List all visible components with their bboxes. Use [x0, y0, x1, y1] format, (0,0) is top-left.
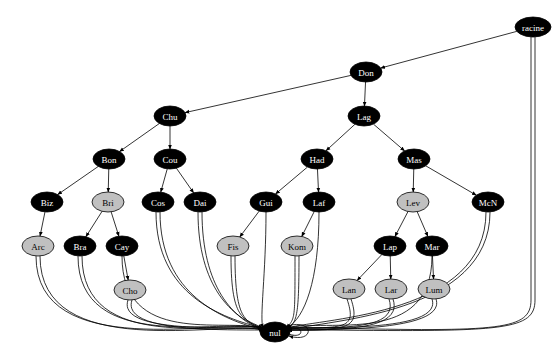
node-Lum[interactable]: Lum [418, 279, 450, 299]
node-label: Dai [194, 198, 207, 208]
node-label: Arc [31, 242, 45, 252]
edge-Bon-Biz [58, 166, 99, 194]
edge-Bon-Bri [108, 169, 109, 192]
node-label: Lev [406, 198, 420, 208]
edge-Lan-nul [286, 299, 350, 328]
node-label: Bon [101, 155, 117, 165]
node-label: nul [269, 328, 281, 338]
node-label: Cou [162, 155, 178, 165]
edge-Mas-Lev [413, 169, 414, 192]
node-Lap[interactable]: Lap [374, 236, 406, 256]
edge-Cos-nul [156, 212, 262, 328]
edge-Bri-Cay [111, 212, 119, 236]
node-Dai[interactable]: Dai [184, 192, 216, 212]
node-label: Don [358, 68, 374, 78]
node-label: Lum [426, 285, 443, 295]
node-label: Cho [122, 286, 138, 296]
graph-diagram: racineDonChuLagBonCouHadMasBizBriCosDaiG… [0, 0, 560, 364]
node-Laf[interactable]: Laf [303, 192, 335, 212]
node-label: Mar [425, 242, 440, 252]
edge-Had-Laf [317, 169, 318, 192]
edge-Fis-nul [235, 256, 264, 330]
node-Lag[interactable]: Lag [348, 106, 380, 126]
edge-Lag-Mas [373, 124, 404, 151]
node-label: Laf [313, 198, 326, 208]
node-Biz[interactable]: Biz [31, 192, 63, 212]
edge-racine-Don [381, 31, 517, 68]
node-label: racine [522, 23, 544, 33]
edge-Fis-nul [231, 256, 262, 328]
node-label: Kom [288, 242, 306, 252]
node-McN[interactable]: McN [472, 192, 504, 212]
node-label: Cay [115, 242, 130, 252]
node-label: McN [479, 198, 498, 208]
node-Bon[interactable]: Bon [93, 149, 125, 169]
edge-Mar-Lum [432, 256, 433, 279]
edge-Lev-Lap [395, 212, 408, 237]
node-racine[interactable]: racine [515, 17, 551, 37]
node-nul[interactable]: nul [260, 322, 290, 342]
node-Mar[interactable]: Mar [416, 236, 448, 256]
edge-Don-Lag [364, 82, 365, 106]
node-label: Mas [406, 155, 422, 165]
node-Bra[interactable]: Bra [64, 236, 96, 256]
node-label: Chu [162, 112, 178, 122]
edge-Biz-Arc [40, 212, 45, 236]
edge-Gui-nul [262, 212, 266, 328]
node-Arc[interactable]: Arc [22, 236, 54, 256]
node-label: Gui [259, 198, 273, 208]
edge-Don-Chu [185, 75, 351, 112]
node-label: Lap [383, 242, 397, 252]
edge-Laf-nul [287, 212, 319, 328]
edge-Lev-Mar [417, 212, 428, 237]
node-Gui[interactable]: Gui [250, 192, 282, 212]
node-layer: racineDonChuLagBonCouHadMasBizBriCosDaiG… [22, 17, 551, 342]
edge-Kom-nul [286, 256, 295, 328]
node-Kom[interactable]: Kom [281, 236, 313, 256]
node-Cos[interactable]: Cos [142, 192, 174, 212]
edge-Lag-Had [326, 124, 355, 150]
node-Cho[interactable]: Cho [114, 280, 146, 300]
node-Fis[interactable]: Fis [217, 236, 249, 256]
edge-McN-nul [286, 212, 486, 328]
node-Chu[interactable]: Chu [154, 106, 186, 126]
node-Lar[interactable]: Lar [375, 279, 407, 299]
edge-Cos-nul [160, 212, 264, 330]
node-label: Had [310, 155, 325, 165]
edge-Lap-Lar [390, 256, 391, 279]
edge-Bri-Bra [86, 211, 102, 236]
edge-Chu-Bon [120, 123, 160, 151]
node-label: Lag [357, 112, 371, 122]
edge-Cou-Cos [161, 169, 168, 192]
node-Had[interactable]: Had [301, 149, 333, 169]
edge-Mas-McN [426, 166, 477, 195]
node-Lan[interactable]: Lan [333, 279, 365, 299]
node-Bri[interactable]: Bri [92, 192, 124, 212]
edge-Bra-nul [82, 256, 264, 330]
node-label: Bra [74, 242, 87, 252]
node-Mas[interactable]: Mas [398, 149, 430, 169]
node-label: Biz [41, 198, 54, 208]
node-Lev[interactable]: Lev [397, 192, 429, 212]
edge-layer [36, 31, 535, 337]
edge-Laf-Kom [302, 212, 314, 237]
node-Don[interactable]: Don [350, 62, 382, 82]
edge-Arc-nul [40, 256, 264, 331]
edge-Had-Gui [276, 167, 308, 194]
edge-Lap-Lan [357, 255, 382, 281]
node-label: Lan [342, 285, 356, 295]
node-Cay[interactable]: Cay [106, 236, 138, 256]
edge-racine-nul [286, 37, 531, 330]
edge-Gui-Fis [240, 211, 259, 237]
node-label: Bri [102, 198, 114, 208]
node-label: Cos [151, 198, 166, 208]
node-Cou[interactable]: Cou [154, 149, 186, 169]
edge-Dai-nul [202, 212, 264, 330]
node-label: Lar [385, 285, 398, 295]
edge-Cou-Dai [176, 168, 193, 193]
node-label: Fis [227, 242, 239, 252]
edge-Dai-nul [198, 212, 262, 328]
